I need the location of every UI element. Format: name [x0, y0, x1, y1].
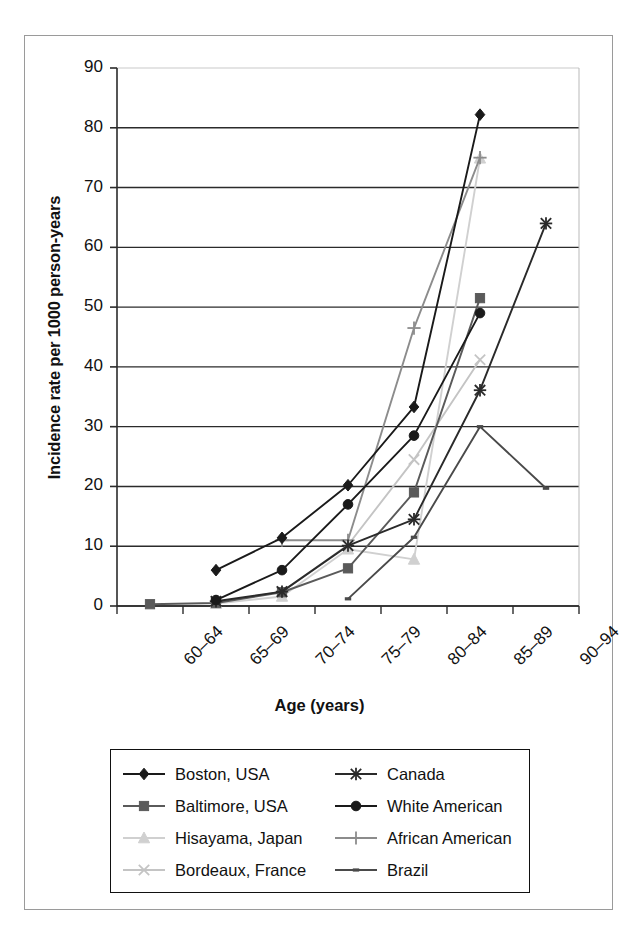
point-Boston, USA-70–74 [277, 532, 287, 544]
y-tick-label-0: 0 [59, 595, 103, 615]
point-Canada-90–94 [540, 217, 552, 229]
legend-marker-square-icon [121, 797, 167, 815]
legend-key-marker [139, 801, 148, 810]
legend-marker-x-icon [121, 861, 167, 879]
legend-marker-dash-icon [333, 861, 379, 879]
line-chart-svg [25, 36, 614, 696]
series-african-american [275, 151, 486, 547]
point-White American-80–84 [409, 431, 419, 441]
legend-item-boston-usa[interactable]: Boston, USA [121, 765, 333, 783]
legend-label: Brazil [387, 862, 428, 879]
y-tick-label-10: 10 [59, 535, 103, 555]
legend-label: Boston, USA [175, 766, 269, 783]
y-tick-label-90: 90 [59, 57, 103, 77]
y-tick-label-30: 30 [59, 416, 103, 436]
y-tick-label-50: 50 [59, 296, 103, 316]
y-tick-label-20: 20 [59, 475, 103, 495]
legend-label: Baltimore, USA [175, 798, 288, 815]
legend-key-marker [350, 768, 362, 780]
point-Baltimore, USA-85–89 [475, 294, 484, 303]
legend-marker-circle-icon [333, 797, 379, 815]
y-tick-label-70: 70 [59, 177, 103, 197]
legend-marker-plus-icon [333, 829, 379, 847]
point-White American-85–89 [475, 308, 485, 318]
point-White American-65–69 [211, 595, 221, 605]
point-Bordeaux, France-85–89 [475, 355, 485, 365]
legend-label: Canada [387, 766, 445, 783]
legend-item-canada[interactable]: Canada [333, 765, 529, 783]
point-Brazil-90–94 [543, 487, 549, 490]
point-African American-80–84 [407, 321, 420, 334]
point-White American-70–74 [277, 565, 287, 575]
point-Canada-70–74 [276, 585, 288, 597]
point-Brazil-80–84 [411, 536, 417, 539]
legend-label: African American [387, 830, 512, 847]
y-tick-label-80: 80 [59, 117, 103, 137]
legend-marker-triangle-icon [121, 829, 167, 847]
point-Bordeaux, France-80–84 [409, 454, 419, 464]
plot-area: Incidence rate per 1000 person-years 010… [25, 36, 614, 696]
y-tick-label-40: 40 [59, 356, 103, 376]
legend-label: Hisayama, Japan [175, 830, 302, 847]
legend-item-white-american[interactable]: White American [333, 797, 529, 815]
legend-marker-asterisk-icon [333, 765, 379, 783]
legend-label: White American [387, 798, 503, 815]
point-Canada-85–89 [474, 384, 486, 396]
legend-key-marker [349, 831, 362, 844]
point-Canada-80–84 [408, 513, 420, 525]
series-white-american [211, 308, 485, 605]
point-Baltimore, USA-60–64 [145, 600, 154, 609]
legend-grid: Boston, USACanadaBaltimore, USAWhite Ame… [111, 758, 529, 886]
legend-marker-diamond-icon [121, 765, 167, 783]
legend-item-hisayama-japan[interactable]: Hisayama, Japan [121, 829, 333, 847]
legend-item-brazil[interactable]: Brazil [333, 861, 529, 879]
legend-box: Boston, USACanadaBaltimore, USAWhite Ame… [110, 749, 530, 893]
legend-item-baltimore-usa[interactable]: Baltimore, USA [121, 797, 333, 815]
legend-key-marker [139, 768, 149, 780]
x-axis-title: Age (years) [25, 696, 614, 715]
y-tick-label-60: 60 [59, 236, 103, 256]
point-Baltimore, USA-80–84 [409, 488, 418, 497]
legend-key-marker [353, 868, 359, 871]
legend-item-bordeaux-france[interactable]: Bordeaux, France [121, 861, 333, 879]
series-baltimore-usa [145, 294, 484, 609]
point-White American-75–79 [343, 500, 353, 510]
point-Boston, USA-85–89 [475, 109, 485, 121]
point-Baltimore, USA-75–79 [343, 564, 352, 573]
point-Brazil-85–89 [477, 425, 483, 428]
legend-key-marker [351, 801, 361, 811]
point-Brazil-75–79 [345, 597, 351, 600]
point-Boston, USA-65–69 [211, 564, 221, 576]
legend-item-african-american[interactable]: African American [333, 829, 529, 847]
legend-label: Bordeaux, France [175, 862, 306, 879]
figure-frame: Incidence rate per 1000 person-years 010… [24, 35, 613, 910]
point-Canada-75–79 [342, 539, 354, 551]
